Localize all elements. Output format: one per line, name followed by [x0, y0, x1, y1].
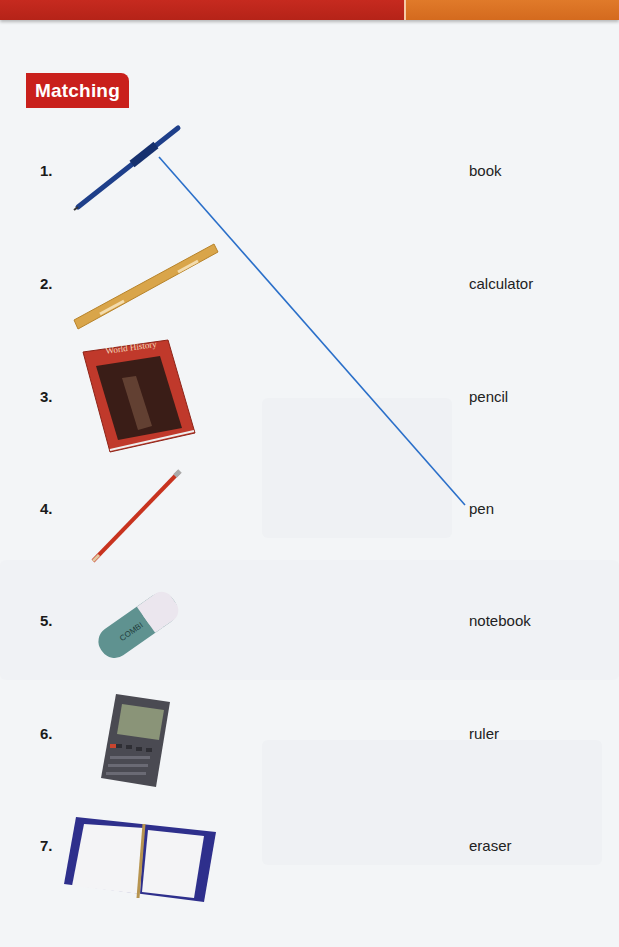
match-word-pen[interactable]: pen — [469, 500, 494, 517]
match-line-1-to-pen[interactable] — [159, 157, 465, 505]
match-word-calculator[interactable]: calculator — [469, 275, 533, 292]
match-word-notebook[interactable]: notebook — [469, 612, 531, 629]
match-word-pencil[interactable]: pencil — [469, 388, 508, 405]
match-word-eraser[interactable]: eraser — [469, 837, 512, 854]
match-word-book[interactable]: book — [469, 162, 502, 179]
match-word-ruler[interactable]: ruler — [469, 725, 499, 742]
match-line-layer — [0, 0, 619, 947]
